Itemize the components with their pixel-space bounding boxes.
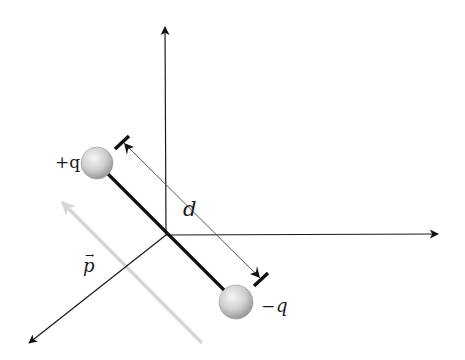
negative-charge-sphere [219,285,253,319]
y-axis [29,235,166,343]
separation-label: d [183,197,196,221]
negative-charge-symbol: q [276,295,288,316]
dipole-rod [97,163,236,302]
negative-charge-sign: − [261,296,275,316]
dipole-diagram: +q − q d p → [0,0,465,360]
dipole-moment-vector-arrow: → [85,249,94,262]
positive-charge-label: +q [55,152,80,172]
dimension-arrow-top-icon [124,143,134,155]
dimension-arrow-bottom-icon [250,266,260,278]
z-axis [165,27,166,235]
positive-charge-sphere [81,147,113,179]
x-axis [166,234,438,235]
